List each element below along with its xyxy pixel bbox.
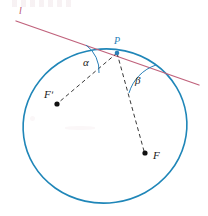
ellipse-reflection-figure: [0, 0, 208, 216]
label-line-l: l: [19, 6, 22, 16]
ellipse-curve: [13, 38, 197, 213]
tangency-point-P: [115, 51, 120, 56]
label-point-P: P: [114, 36, 120, 46]
label-angle-beta: β: [135, 75, 140, 86]
focus-point-F-prime: [54, 101, 59, 106]
label-focus-F-prime: Fʹ: [44, 89, 53, 100]
segment-P-to-F: [117, 53, 144, 151]
focus-point-F: [142, 150, 147, 155]
label-angle-alpha: α: [83, 57, 89, 68]
label-focus-F: F: [153, 150, 160, 161]
